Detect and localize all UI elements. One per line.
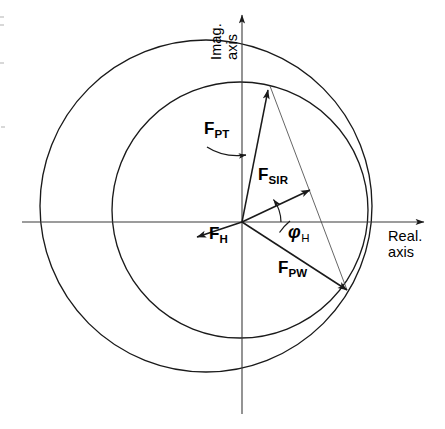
diagram-canvas	[0, 0, 445, 429]
vector-label-pt-subscript: PT	[214, 128, 229, 140]
inner-circle	[112, 82, 368, 338]
angle-label-phi-h-subscript: H	[301, 232, 309, 244]
vector-label-sir-symbol: F	[258, 165, 268, 184]
vector-label-h: FH	[209, 224, 228, 243]
vector-label-pt-symbol: F	[204, 119, 214, 138]
vector-label-sir: FSIR	[258, 165, 288, 184]
imaginary-axis-label-line2: axis	[224, 34, 240, 60]
vector-label-sir-subscript: SIR	[268, 174, 288, 186]
real-axis-label-line1: Real.	[388, 228, 422, 244]
angle-arc-phi-h	[274, 200, 282, 223]
vector-label-pw: FPW	[278, 258, 307, 277]
real-axis-label-line2: axis	[388, 244, 414, 260]
vector-pt	[242, 90, 268, 222]
circle-group	[40, 40, 372, 372]
imaginary-axis-label-line1: Imag.	[208, 23, 224, 60]
real-axis-label: Real. axis	[388, 228, 422, 260]
vector-label-h-symbol: F	[209, 224, 219, 243]
leader-pt	[207, 147, 246, 156]
angle-label-phi-h-symbol: φ	[288, 222, 301, 242]
angle-label-phi-h: φH	[288, 222, 309, 242]
vector-label-pw-subscript: PW	[288, 267, 307, 279]
vector-label-h-subscript: H	[219, 233, 228, 245]
imaginary-axis-label: Imag. axis	[208, 23, 240, 60]
outer-circle	[40, 40, 372, 372]
vector-sir	[242, 190, 310, 222]
vector-label-pt: FPT	[204, 119, 230, 138]
vector-label-pw-symbol: F	[278, 258, 288, 277]
phasor-diagram-figure: Imag. axis Real. axis FPT FSIR FH FPW φH	[0, 0, 445, 429]
